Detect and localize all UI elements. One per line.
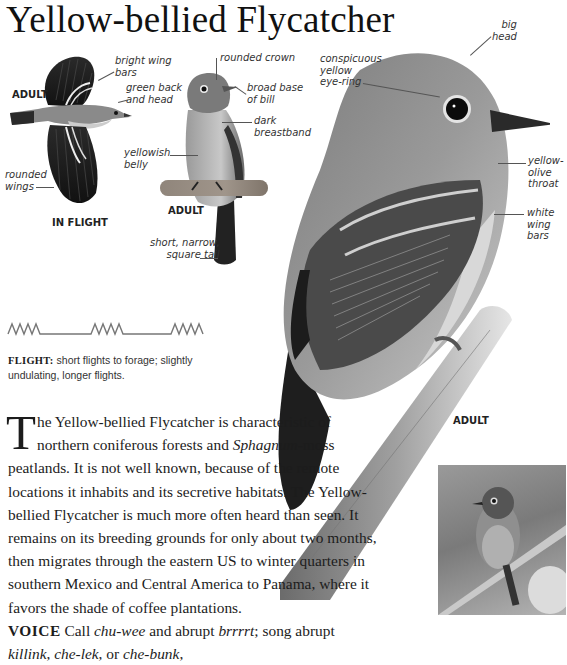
- leader-line: [200, 258, 218, 259]
- description-part-2: -moss peatlands. It is not well known, b…: [8, 436, 376, 615]
- in-flight-age-label: ADULT: [12, 89, 48, 100]
- leader-line: [36, 187, 54, 188]
- voice-text: ,: [179, 645, 183, 662]
- leader-line: [494, 214, 524, 215]
- bird-photo: [438, 465, 566, 615]
- in-flight-caption: IN FLIGHT: [52, 217, 108, 228]
- voice-call: chu-wee: [94, 622, 145, 639]
- voice-text: and abrupt: [145, 622, 218, 639]
- voice-song: killink: [8, 645, 46, 662]
- label-short-narrow-square-tail: short, narrow, square tail: [150, 237, 220, 260]
- leader-line: [222, 122, 252, 123]
- small-perched-caption: ADULT: [168, 205, 204, 216]
- description-italic: Sphagnum: [233, 436, 298, 453]
- label-conspicuous-yellow-eye-ring: conspicuous yellow eye-ring: [320, 53, 382, 88]
- flight-label: FLIGHT:: [8, 355, 54, 366]
- voice-label: VOICE: [8, 622, 61, 639]
- voice-song: che-bunk: [123, 645, 179, 662]
- undulating-flight-pattern-icon: [6, 318, 206, 340]
- label-yellow-olive-throat: yellow- olive throat: [528, 155, 564, 190]
- voice-call: brrrrt: [218, 622, 254, 639]
- page-title: Yellow-bellied Flycatcher: [6, 0, 395, 42]
- flight-description: FLIGHT: short flights to forage; slightl…: [8, 353, 238, 382]
- label-white-wing-bars: white wing bars: [527, 207, 554, 242]
- leader-line: [216, 58, 217, 80]
- dropcap: T: [6, 413, 36, 453]
- species-description: The Yellow-bellied Flycatcher is charact…: [8, 410, 378, 665]
- leader-line: [170, 155, 198, 156]
- leader-line: [498, 163, 526, 164]
- label-big-head: big head: [492, 19, 517, 42]
- label-rounded-wings: rounded wings: [5, 169, 47, 192]
- voice-text: ; song abrupt: [254, 622, 334, 639]
- voice-text: , or: [99, 645, 123, 662]
- bird-photo-icon: [438, 465, 566, 615]
- large-perched-caption: ADULT: [453, 415, 489, 426]
- voice-text: Call: [61, 622, 94, 639]
- voice-song: che-lek: [54, 645, 98, 662]
- label-yellowish-belly: yellowish belly: [124, 147, 170, 170]
